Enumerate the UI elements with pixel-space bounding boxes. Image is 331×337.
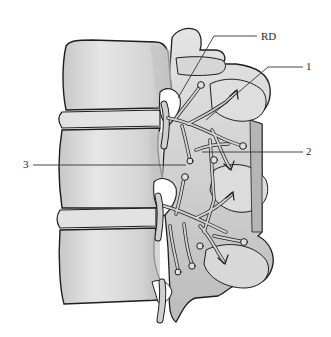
label-1: 1	[306, 61, 312, 72]
spine-anatomy-illustration	[0, 0, 331, 337]
posterior-elements	[162, 28, 273, 322]
label-2: 2	[306, 146, 312, 157]
vertebral-bodies	[57, 40, 172, 304]
label-RD: RD	[261, 31, 276, 42]
label-3: 3	[23, 159, 29, 170]
